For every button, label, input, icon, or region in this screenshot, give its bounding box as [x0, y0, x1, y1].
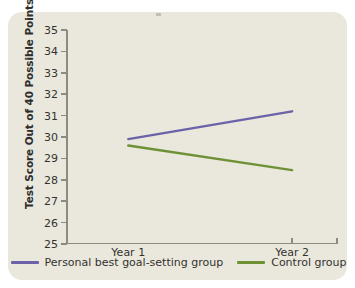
legend-label: Control group — [271, 256, 346, 269]
chart-panel: Test Score Out of 40 Possible Points 353… — [8, 12, 347, 280]
y-tick-label: 31 — [44, 109, 58, 122]
chart-legend: Personal best goal-setting groupControl … — [16, 256, 341, 269]
y-tick-label: 25 — [44, 238, 58, 251]
series-lines — [66, 30, 338, 244]
y-tick-label: 26 — [44, 216, 58, 229]
legend-entry: Control group — [237, 256, 346, 269]
y-tick-label: 33 — [44, 66, 58, 79]
series-line — [128, 111, 292, 139]
series-line — [128, 146, 292, 171]
y-tick-label: 27 — [44, 195, 58, 208]
y-tick-label: 29 — [44, 152, 58, 165]
image-artifact — [156, 13, 161, 16]
legend-label: Personal best goal-setting group — [45, 256, 224, 269]
y-tick-label: 34 — [44, 45, 58, 58]
y-tick-label: 28 — [44, 173, 58, 186]
legend-swatch — [237, 261, 265, 264]
legend-swatch — [11, 261, 39, 264]
plot-area: 3534333231302928272625 Year 1Year 2 — [66, 30, 338, 244]
y-tick-label: 35 — [44, 24, 58, 37]
y-tick-label: 30 — [44, 131, 58, 144]
y-tick-label: 32 — [44, 88, 58, 101]
y-axis-title: Test Score Out of 40 Possible Points — [23, 19, 35, 209]
legend-entry: Personal best goal-setting group — [11, 256, 224, 269]
